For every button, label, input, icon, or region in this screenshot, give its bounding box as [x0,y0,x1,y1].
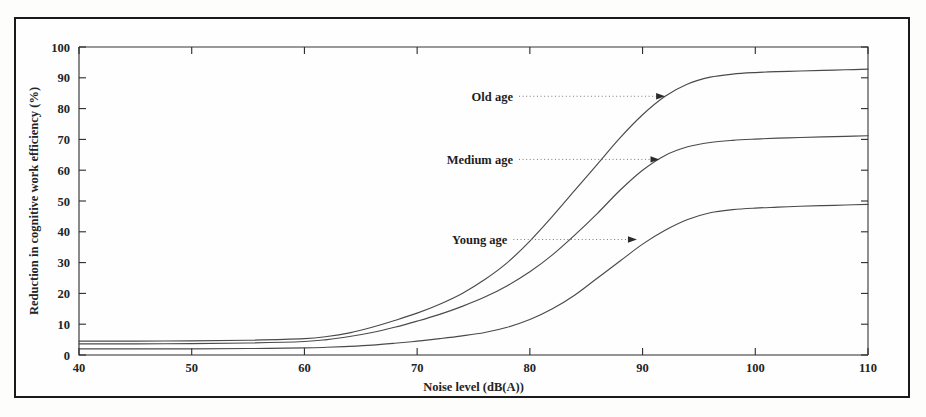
series-annotation-label: Old age [472,90,514,104]
page-canvas: 0102030405060708090100405060708090100110… [0,0,926,417]
annotation-arrow-icon [628,236,637,242]
chart-series-annotations: Old ageMedium ageYoung age [447,90,665,247]
y-tick-label: 100 [51,41,70,55]
y-tick-label: 90 [58,71,71,85]
annotation-arrow-icon [656,93,665,99]
chart-figure: 0102030405060708090100405060708090100110… [0,0,926,417]
x-tick-label: 50 [185,361,198,375]
y-tick-label: 20 [58,287,71,301]
series-curve [79,204,868,348]
y-tick-label: 50 [58,195,71,209]
x-tick-label: 60 [298,361,311,375]
y-tick-label: 10 [58,318,71,332]
y-tick-label: 60 [58,164,71,178]
series-curve [79,69,868,341]
series-annotation-label: Medium age [447,153,514,167]
y-tick-label: 40 [58,225,71,239]
series-annotation-label: Young age [452,233,508,247]
x-tick-label: 100 [746,361,765,375]
y-tick-label: 0 [64,349,70,363]
x-tick-label: 80 [524,361,537,375]
y-axis-title: Reduction in cognitive work efficiency (… [27,87,41,315]
x-tick-label: 40 [73,361,86,375]
y-tick-label: 80 [58,102,71,116]
chart-series-curves [79,69,868,349]
chart-plot-area: 0102030405060708090100405060708090100110… [0,0,926,417]
y-tick-label: 70 [58,133,71,147]
x-tick-label: 70 [411,361,424,375]
x-tick-label: 110 [859,361,877,375]
y-tick-label: 30 [58,256,71,270]
x-tick-label: 90 [636,361,649,375]
x-axis-title: Noise level (dB(A)) [423,380,524,394]
